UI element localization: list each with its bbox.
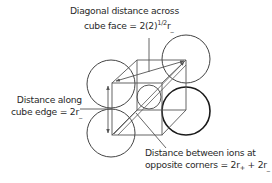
- label-corners-line2: opposite corners = 2r+ + 2r_: [145, 159, 270, 174]
- leader-corners: [136, 113, 166, 148]
- label-corners-mid: + 2r: [245, 159, 267, 170]
- leader-lines: [80, 38, 166, 148]
- label-face-diagonal-line1: Diagonal distance across: [70, 5, 179, 17]
- label-edge-subscript: _: [79, 111, 82, 119]
- cube-edge-tl: [112, 60, 137, 83]
- label-edge: Distance along cube edge = 2r_: [11, 94, 82, 121]
- label-face-exponent: 1/2: [157, 19, 167, 27]
- label-corners-line1: Distance between ions at: [145, 147, 270, 159]
- label-face-prefix: cube face = 2(2): [84, 20, 157, 31]
- body-diagonal-arrow: [114, 62, 186, 135]
- anion-circles: [87, 35, 210, 157]
- cation-center: [137, 85, 161, 109]
- label-face-subscript: _: [171, 25, 174, 33]
- label-edge-prefix: cube edge = 2r: [11, 106, 79, 117]
- label-corners-subscript-minus: _: [267, 164, 270, 172]
- label-face-diagonal: Diagonal distance across cube face = 2(2…: [70, 5, 179, 35]
- label-corners-prefix: opposite corners = 2r: [145, 159, 240, 170]
- label-corners: Distance between ions at opposite corner…: [145, 147, 270, 174]
- anion-bottom-left: [87, 109, 135, 157]
- label-face-diagonal-line2: cube face = 2(2)1/2r_: [70, 17, 179, 35]
- anion-top-left: [87, 60, 135, 108]
- label-edge-line1: Distance along: [11, 94, 82, 106]
- label-edge-line2: cube edge = 2r_: [11, 106, 82, 121]
